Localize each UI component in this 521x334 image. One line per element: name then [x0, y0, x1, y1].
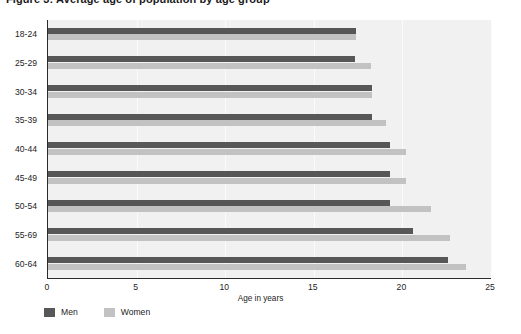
- chart-legend: MenWomen: [44, 307, 150, 317]
- y-axis-label-30-34: 30-34: [15, 87, 37, 97]
- bar-group: [48, 20, 491, 49]
- bar-women-55-69: [48, 235, 450, 241]
- bar-group: [48, 192, 491, 221]
- bar-men-50-54: [48, 200, 390, 206]
- x-axis-tick-25: 25: [485, 282, 495, 292]
- y-axis-labels: 18-2425-2930-3435-3940-4445-4950-5455-69…: [0, 20, 42, 278]
- y-axis-label-25-29: 25-29: [15, 58, 37, 68]
- y-axis-label-40-44: 40-44: [15, 144, 37, 154]
- bar-group: [48, 163, 491, 192]
- bar-women-25-29: [48, 63, 371, 69]
- bar-women-35-39: [48, 120, 386, 126]
- clipped-title-strip: Figure 3: Average age of population by a…: [0, 0, 521, 9]
- bar-men-25-29: [48, 56, 355, 62]
- bar-men-55-69: [48, 228, 413, 234]
- x-axis-tick-15: 15: [308, 282, 318, 292]
- bar-women-18-24: [48, 34, 356, 40]
- bar-women-60-64: [48, 264, 466, 270]
- legend-swatch-men: [44, 308, 55, 317]
- y-axis-label-50-54: 50-54: [15, 201, 37, 211]
- x-axis-tick-10: 10: [219, 282, 229, 292]
- legend-item-women[interactable]: Women: [104, 307, 150, 317]
- legend-item-men[interactable]: Men: [44, 307, 78, 317]
- bar-men-45-49: [48, 171, 390, 177]
- legend-label-women: Women: [121, 307, 150, 317]
- page-title: Figure 3: Average age of population by a…: [6, 0, 270, 5]
- legend-label-men: Men: [61, 307, 78, 317]
- bar-group: [48, 106, 491, 135]
- bar-women-50-54: [48, 206, 431, 212]
- bar-men-40-44: [48, 142, 390, 148]
- gridline: [491, 20, 492, 278]
- legend-swatch-women: [104, 308, 115, 317]
- bar-group: [48, 77, 491, 106]
- y-axis-label-45-49: 45-49: [15, 173, 37, 183]
- bar-men-30-34: [48, 85, 372, 91]
- bar-women-30-34: [48, 92, 372, 98]
- chart-page: Figure 3: Average age of population by a…: [0, 0, 521, 334]
- y-axis-label-55-69: 55-69: [15, 230, 37, 240]
- bar-women-45-49: [48, 178, 406, 184]
- bar-men-18-24: [48, 28, 356, 34]
- bar-men-35-39: [48, 114, 372, 120]
- y-axis-label-35-39: 35-39: [15, 115, 37, 125]
- bar-group: [48, 49, 491, 78]
- bar-group: [48, 249, 491, 278]
- bar-group: [48, 221, 491, 250]
- bar-group: [48, 135, 491, 164]
- x-axis-tick-0: 0: [45, 282, 50, 292]
- x-axis-title: Age in years: [0, 294, 521, 303]
- plot-area: [47, 20, 491, 279]
- x-axis-tick-20: 20: [397, 282, 407, 292]
- bar-women-40-44: [48, 149, 406, 155]
- bar-men-60-64: [48, 257, 448, 263]
- x-axis-tick-5: 5: [133, 282, 138, 292]
- y-axis-label-18-24: 18-24: [15, 29, 37, 39]
- y-axis-label-60-64: 60-64: [15, 259, 37, 269]
